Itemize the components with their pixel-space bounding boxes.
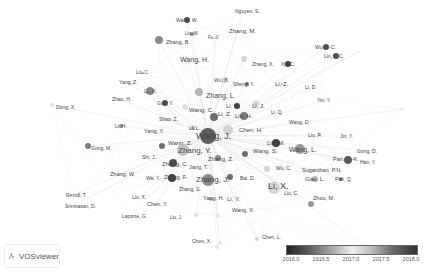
node-label[interactable]: Wang, W. — [176, 18, 198, 23]
node-label[interactable]: Wu, C. — [276, 166, 291, 171]
node-label[interactable]: Li, X. — [226, 103, 240, 109]
node-label[interactable]: Yin, Y. — [317, 98, 331, 103]
node-label[interactable]: Liu, F. — [308, 133, 321, 138]
node-label[interactable]: Li, D. — [305, 85, 317, 90]
node-label[interactable]: Chen, Y. — [147, 202, 168, 208]
network-node[interactable] — [159, 143, 165, 149]
node-label[interactable]: Li, Y. — [227, 196, 240, 202]
network-node[interactable] — [255, 237, 259, 241]
node-label[interactable]: Chen, H. — [239, 127, 263, 133]
node-label[interactable]: Reindl, T. — [66, 193, 87, 198]
network-node[interactable] — [155, 36, 163, 44]
node-label[interactable]: Liu, J. — [170, 216, 182, 221]
network-node[interactable] — [216, 214, 220, 218]
network-node[interactable] — [218, 241, 222, 245]
network-node[interactable] — [308, 201, 314, 207]
node-label[interactable]: Zhang, W. — [110, 172, 135, 178]
node-label[interactable]: Wang, D. — [289, 120, 310, 125]
node-label[interactable]: Zhang, C. — [162, 161, 188, 167]
node-label[interactable]: Liu, M. — [267, 140, 285, 146]
node-label[interactable]: Zhang, X. — [252, 62, 274, 67]
legend-tick: 2017.0 — [343, 256, 360, 262]
node-label[interactable]: Dong, X. — [56, 105, 75, 110]
node-label[interactable]: Yang, Z. — [119, 80, 138, 85]
node-label[interactable]: Liu, W. — [185, 32, 199, 37]
node-label[interactable]: Zhang, L. — [206, 92, 236, 99]
network-canvas[interactable]: Nguyen, S.Wang, W.Zhang, M.Liu, W.Fu, Y.… — [0, 0, 428, 277]
node-label[interactable]: Wang, H. — [180, 56, 209, 63]
network-node[interactable] — [227, 174, 233, 180]
node-label[interactable]: Zhao, H. — [112, 97, 131, 102]
node-label[interactable]: Chen, X. — [192, 239, 211, 244]
node-label[interactable]: Shi, J. — [142, 155, 156, 160]
node-label[interactable]: Wu, Y. — [146, 176, 160, 181]
node-label[interactable]: Jiang, T. — [189, 165, 208, 170]
network-edge — [52, 105, 74, 195]
network-node[interactable] — [215, 245, 219, 249]
node-label[interactable]: Li, H. — [115, 124, 127, 129]
node-label[interactable]: Pan, Q. — [335, 177, 352, 182]
vosviewer-brand: VOSviewer — [4, 244, 60, 268]
node-label[interactable]: Liu, H. — [235, 113, 252, 119]
node-label[interactable]: Xu, C. — [281, 62, 295, 67]
network-node[interactable] — [50, 103, 54, 107]
node-label[interactable]: Li, J. — [252, 103, 265, 109]
network-node[interactable] — [357, 51, 359, 53]
brand-label: VOSviewer — [19, 252, 59, 261]
node-label[interactable]: Nguyen, S. — [235, 9, 260, 14]
node-label[interactable]: Li, Z. — [218, 111, 231, 117]
node-label[interactable]: Liu, C. — [284, 191, 298, 196]
node-label[interactable]: Wu, J.-C. — [315, 45, 336, 50]
legend-tick: 2016.0 — [283, 256, 300, 262]
node-label[interactable]: Srinivasan, D. — [65, 204, 96, 209]
node-label[interactable]: Yang, H. — [203, 196, 224, 202]
network-edge — [325, 100, 403, 109]
legend-tick: 2018.0 — [403, 256, 420, 262]
node-label[interactable]: Laporte, G. — [122, 214, 147, 219]
network-node[interactable] — [194, 213, 198, 217]
network-edge — [118, 126, 121, 175]
node-label[interactable]: Zhang, Z. — [208, 156, 234, 162]
node-label[interactable]: Chen, L. — [262, 235, 281, 240]
node-label[interactable]: Wang, L. — [289, 146, 317, 153]
network-node[interactable] — [241, 56, 247, 62]
node-label[interactable]: Wang, C. — [189, 107, 214, 113]
node-label[interactable]: Fu, Y. — [208, 36, 219, 41]
node-label[interactable]: Zhou, M. — [313, 196, 335, 202]
node-label[interactable]: Zhang, F. — [164, 175, 187, 181]
node-label[interactable]: Suganthan, P.N. — [302, 168, 342, 174]
node-label[interactable]: Sheng, Y. — [233, 82, 254, 87]
node-label[interactable]: Han, Y. — [360, 160, 376, 165]
node-label[interactable]: Yang, Y. — [144, 129, 164, 135]
node-label[interactable]: Wang, S. — [253, 148, 277, 154]
node-label[interactable]: Zhang, M. — [229, 28, 256, 34]
node-label[interactable]: Li, Z. — [275, 81, 288, 87]
node-label[interactable]: Li, K. — [144, 88, 158, 94]
node-label[interactable]: Zhang, S. — [179, 187, 201, 192]
node-label[interactable]: Li, Q. — [271, 110, 283, 115]
network-node[interactable] — [264, 166, 270, 172]
network-node[interactable] — [402, 108, 404, 110]
node-label[interactable]: Wang, J. — [196, 132, 231, 141]
node-label[interactable]: Gong, D. — [357, 149, 377, 154]
node-label[interactable]: Shao, Z. — [159, 117, 178, 122]
network-node[interactable] — [195, 88, 203, 96]
node-label[interactable]: Jin, Y. — [340, 134, 353, 139]
legend-ticks: 2016.0 2016.5 2017.0 2017.5 2018.0 — [286, 255, 418, 265]
node-label[interactable]: Bai, D. — [240, 176, 255, 181]
node-label[interactable]: Gao, L. — [305, 176, 325, 182]
node-label[interactable]: Zhang, B. — [166, 40, 190, 46]
node-label[interactable]: Lin, Y.-C. — [324, 54, 344, 59]
node-label[interactable]: Wang, X. — [232, 208, 254, 214]
node-label[interactable]: Zhang, J. — [196, 176, 229, 184]
node-label[interactable]: Pan, Q.-K. — [333, 157, 359, 163]
node-label[interactable]: Gong, M. — [91, 146, 112, 151]
node-label[interactable]: Liu, C. — [136, 71, 149, 76]
node-label[interactable]: Zhang, Y. — [178, 147, 212, 155]
network-node[interactable] — [242, 151, 248, 157]
network-node[interactable] — [182, 104, 188, 110]
node-label[interactable]: Guo, Y. — [157, 101, 173, 106]
network-node[interactable] — [210, 113, 218, 121]
node-label[interactable]: Liu, X. — [132, 195, 146, 200]
node-label[interactable]: Wu, X. — [214, 78, 229, 83]
